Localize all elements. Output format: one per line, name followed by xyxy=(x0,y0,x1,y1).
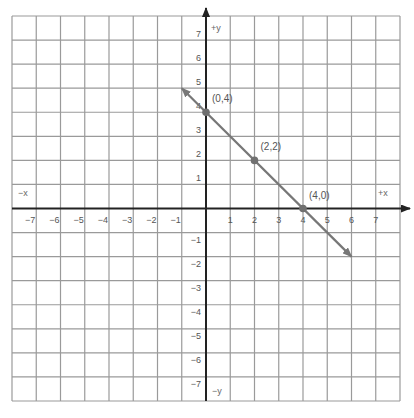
point-label: (2,2) xyxy=(261,141,282,152)
x-tick-label: 2 xyxy=(252,215,257,225)
y-tick-label: −3 xyxy=(191,283,201,293)
pos-x-label: +x xyxy=(378,188,388,198)
x-tick-label: 5 xyxy=(325,215,330,225)
y-tick-label: 7 xyxy=(196,29,201,39)
y-tick-label: −4 xyxy=(191,307,201,317)
y-tick-label: 6 xyxy=(196,53,201,63)
x-tick-label: 4 xyxy=(300,215,305,225)
x-tick-label: 6 xyxy=(349,215,354,225)
x-tick-label: 1 xyxy=(228,215,233,225)
x-tick-label: −5 xyxy=(74,215,84,225)
x-tick-label: 3 xyxy=(276,215,281,225)
data-point xyxy=(299,205,307,213)
y-tick-label: 3 xyxy=(196,125,201,135)
y-tick-label: −2 xyxy=(191,259,201,269)
x-tick-label: −1 xyxy=(171,215,181,225)
x-tick-label: −4 xyxy=(98,215,108,225)
x-tick-label: 7 xyxy=(373,215,378,225)
y-tick-label: −7 xyxy=(191,379,201,389)
x-tick-label: −7 xyxy=(25,215,35,225)
y-tick-label: 5 xyxy=(196,77,201,87)
point-label: (4,0) xyxy=(309,190,330,201)
point-label: (0,4) xyxy=(212,93,233,104)
x-tick-label: −6 xyxy=(49,215,59,225)
x-tick-label: −3 xyxy=(122,215,132,225)
axes xyxy=(12,8,410,401)
neg-y-label: −y xyxy=(212,386,222,396)
y-tick-label: −1 xyxy=(191,235,201,245)
neg-x-label: −x xyxy=(18,188,28,198)
y-tick-label: 2 xyxy=(196,149,201,159)
data-point xyxy=(251,157,259,165)
data-points: (0,4)(2,2)(4,0) xyxy=(202,93,329,212)
y-tick-label: 1 xyxy=(196,173,201,183)
y-tick-label: −5 xyxy=(191,331,201,341)
data-point xyxy=(202,108,210,116)
x-tick-label: −2 xyxy=(146,215,156,225)
coordinate-plane: −7−6−5−4−3−2−11234567−7−6−5−4−3−2−112345… xyxy=(0,0,414,418)
pos-y-label: +y xyxy=(211,23,221,33)
y-tick-label: −6 xyxy=(191,355,201,365)
